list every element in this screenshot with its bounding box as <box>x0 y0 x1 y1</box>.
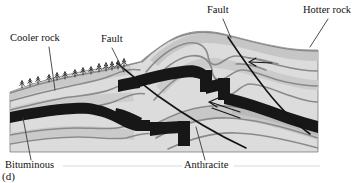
panel-identifier: (d) <box>2 171 15 182</box>
leader-hotter-rock <box>310 19 328 47</box>
label-cooler-rock: Cooler rock <box>10 33 60 44</box>
label-fault-top: Fault <box>207 5 229 16</box>
figure-panel: Cooler rock Fault Fault Hotter rock Bitu… <box>0 0 363 183</box>
label-anthracite: Anthracite <box>184 160 228 171</box>
label-hotter-rock: Hotter rock <box>303 5 351 16</box>
label-fault-left: Fault <box>101 34 123 45</box>
label-bituminous: Bituminous <box>5 160 54 171</box>
cross-section-drawing <box>0 0 363 183</box>
